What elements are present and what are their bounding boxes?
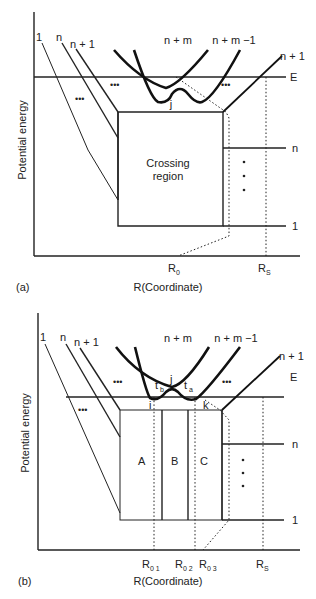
panel-tag-a: (a) xyxy=(16,281,29,293)
panel-tag-b: (b) xyxy=(18,575,31,587)
label-j: j xyxy=(169,373,172,385)
svg-text:0 1: 0 1 xyxy=(150,565,160,572)
panel-b: Potential energy E A B C n 1 n + m n + m… xyxy=(18,313,304,587)
level-n-label: n xyxy=(292,142,298,154)
curve-n-plus-m xyxy=(114,50,208,88)
curve-n xyxy=(62,43,118,138)
panel-a: Potential energy E Crossing region n 1 n… xyxy=(16,12,305,293)
svg-text:n: n xyxy=(292,438,298,450)
label-1: 1 xyxy=(36,31,42,43)
region-a: A xyxy=(138,455,146,467)
label-n-plus-m-minus-1: n + m −1 xyxy=(212,34,255,46)
curve-n-plus-m-minus-1 xyxy=(135,347,240,400)
svg-text:0 2: 0 2 xyxy=(183,565,193,572)
svg-text:•••: ••• xyxy=(78,405,87,415)
svg-text:n + 1: n + 1 xyxy=(279,350,304,362)
crossing-region-label-1: Crossing xyxy=(146,157,189,169)
svg-text:n: n xyxy=(60,331,66,343)
svg-text:R: R xyxy=(256,558,264,570)
svg-text:1: 1 xyxy=(40,331,46,343)
crossing-region-box xyxy=(118,112,223,226)
y-axis-label: Potential energy xyxy=(19,393,31,473)
svg-text:R: R xyxy=(199,558,207,570)
curve-n-plus-m xyxy=(116,347,209,387)
svg-text:R: R xyxy=(168,262,176,274)
svg-text:n + m: n + m xyxy=(164,332,192,344)
label-i: i xyxy=(149,399,151,411)
x-axis-label: R(Coordinate) xyxy=(133,575,202,587)
region-b: B xyxy=(171,455,178,467)
svg-text:S: S xyxy=(266,269,271,276)
svg-text:S: S xyxy=(264,565,269,572)
svg-text:•••: ••• xyxy=(113,377,122,387)
svg-text:t: t xyxy=(184,379,187,391)
svg-text:R: R xyxy=(142,558,150,570)
svg-text:•••: ••• xyxy=(222,377,231,387)
r03-guide xyxy=(203,400,229,550)
svg-text:•••: ••• xyxy=(221,80,230,90)
label-n: n xyxy=(56,31,62,43)
label-n-plus-m: n + m xyxy=(164,34,192,46)
y-axis-label: Potential energy xyxy=(16,100,28,180)
svg-text:1: 1 xyxy=(292,514,298,526)
svg-text:t: t xyxy=(155,379,158,391)
svg-text:n + 1: n + 1 xyxy=(74,336,99,348)
level-1-label: 1 xyxy=(292,220,298,232)
curve-1-lower xyxy=(88,150,118,200)
label-n-plus-1: n + 1 xyxy=(70,38,95,50)
svg-text:•••: ••• xyxy=(110,80,119,90)
crossing-region-label-2: region xyxy=(153,170,184,182)
svg-text:n + m −1: n + m −1 xyxy=(214,332,257,344)
label-j: j xyxy=(169,98,172,110)
energy-label: E xyxy=(290,71,297,83)
label-n-plus-1-right: n + 1 xyxy=(280,50,305,62)
svg-text:R: R xyxy=(175,558,183,570)
svg-text:•••: ••• xyxy=(75,94,84,104)
svg-text:a: a xyxy=(189,386,193,393)
curve-n xyxy=(66,344,120,437)
energy-label: E xyxy=(290,371,297,383)
x-axis-label: R(Coordinate) xyxy=(133,281,202,293)
svg-text:0: 0 xyxy=(176,269,180,276)
curve-n-plus-m-minus-1 xyxy=(134,50,240,102)
svg-text:0 3: 0 3 xyxy=(207,565,217,572)
svg-text:b: b xyxy=(160,386,164,393)
region-c: C xyxy=(200,455,208,467)
svg-text:R: R xyxy=(258,262,266,274)
potential-energy-diagram: Potential energy E Crossing region n 1 n… xyxy=(0,0,316,599)
